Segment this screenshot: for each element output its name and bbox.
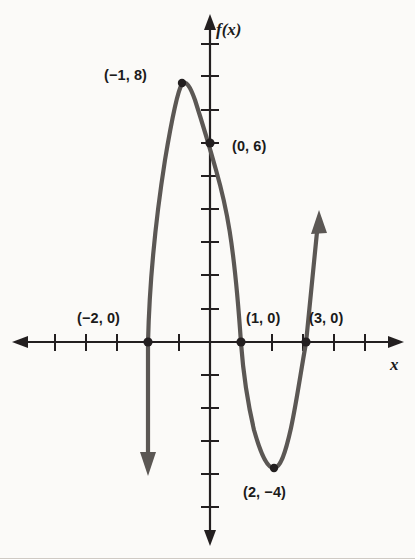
- annotation-root-mid: (1, 0): [246, 310, 280, 326]
- curve-arrow-up: [311, 210, 327, 234]
- annotation-root-right: (3, 0): [309, 310, 343, 326]
- annotation-root-left: (−2, 0): [77, 310, 120, 326]
- y-axis-label: f(x): [216, 20, 241, 40]
- y-axis-arrow-down: [204, 530, 216, 546]
- coordinate-plane: [0, 0, 415, 559]
- y-axis-arrow-up: [204, 14, 216, 30]
- graph-figure: f(x) x (−1, 8) (0, 6) (−2, 0) (1, 0) (3,…: [0, 0, 415, 559]
- y-axis: [201, 14, 219, 546]
- x-axis-label: x: [390, 355, 399, 375]
- annotation-peak: (−1, 8): [104, 67, 147, 83]
- point-minimum: [270, 464, 278, 472]
- x-axis-arrow-right: [388, 336, 404, 348]
- point-root-left: [143, 337, 152, 346]
- point-y-intercept: [205, 138, 214, 147]
- point-root-right: [301, 337, 310, 346]
- annotation-y-intercept: (0, 6): [232, 138, 266, 154]
- point-root-mid: [236, 337, 245, 346]
- x-axis-arrow-left: [12, 336, 28, 348]
- curve-arrow-down: [140, 452, 156, 476]
- annotation-minimum: (2, −4): [243, 484, 286, 500]
- point-peak: [178, 79, 186, 87]
- x-axis: [12, 334, 404, 351]
